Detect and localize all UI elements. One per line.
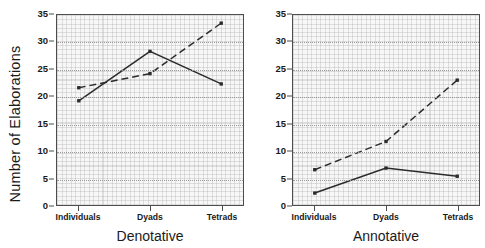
y-tick-label: 5 (281, 174, 286, 184)
gridline-10 (57, 152, 243, 153)
x-tick-label: Individuals (292, 213, 337, 222)
gridline-10 (293, 152, 479, 153)
y-tick-label: 15 (275, 119, 286, 129)
data-point-marker (220, 82, 223, 85)
data-point-marker (384, 166, 387, 169)
plot-area-denotative (56, 14, 244, 206)
y-axis-ticks-denotative: 05101520253035 (8, 14, 54, 206)
chart-panel-annotative (292, 14, 480, 206)
plot-lines-denotative (57, 15, 243, 205)
x-axis-title-annotative: Annotative (292, 228, 480, 244)
y-tick-label: 25 (37, 64, 48, 74)
data-point-marker (313, 168, 316, 171)
series-line-dashed (79, 23, 221, 88)
x-tick-mark (222, 206, 223, 211)
data-point-marker (148, 50, 151, 53)
y-tick-label: 30 (37, 37, 48, 47)
series-line-solid (79, 51, 221, 100)
figure-canvas: Number of Elaborations 05101520253035 De… (0, 0, 485, 248)
y-tick-label: 15 (37, 119, 48, 129)
gridline-30 (293, 42, 479, 43)
data-point-marker (456, 78, 459, 81)
y-tick-mark (49, 41, 54, 42)
y-tick-label: 30 (275, 37, 286, 47)
y-tick-label: 35 (37, 9, 48, 19)
gridline-15 (57, 125, 243, 126)
x-tick-label: Individuals (56, 213, 101, 222)
y-tick-mark (49, 123, 54, 124)
y-tick-mark (49, 14, 54, 15)
y-tick-mark (49, 68, 54, 69)
x-axis-title-denotative: Denotative (56, 228, 244, 244)
y-tick-label: 0 (43, 201, 48, 211)
x-axis-annotative: Annotative IndividualsDyadsTetrads (292, 206, 480, 246)
y-tick-mark (49, 206, 54, 207)
gridline-15 (293, 125, 479, 126)
x-tick-mark (314, 206, 315, 211)
gridline-30 (57, 42, 243, 43)
x-axis-denotative: Denotative IndividualsDyadsTetrads (56, 206, 244, 246)
x-tick-label: Dyads (137, 213, 163, 222)
y-tick-label: 10 (37, 146, 48, 156)
x-tick-mark (386, 206, 387, 211)
gridline-5 (293, 180, 479, 181)
y-tick-label: 5 (43, 174, 48, 184)
y-axis-ticks-annotative: 05101520253035 (246, 14, 292, 206)
y-tick-label: 20 (275, 92, 286, 102)
x-tick-mark (78, 206, 79, 211)
data-point-marker (77, 99, 80, 102)
data-point-marker (313, 191, 316, 194)
gridline-25 (293, 70, 479, 71)
plot-lines-annotative (293, 15, 479, 205)
y-tick-label: 20 (37, 92, 48, 102)
x-tick-label: Tetrads (207, 213, 237, 222)
plot-area-annotative (292, 14, 480, 206)
data-point-marker (77, 86, 80, 89)
x-tick-mark (458, 206, 459, 211)
gridline-20 (57, 97, 243, 98)
data-point-marker (148, 72, 151, 75)
y-tick-mark (49, 151, 54, 152)
x-tick-mark (150, 206, 151, 211)
x-tick-label: Tetrads (443, 213, 473, 222)
y-tick-label: 25 (275, 64, 286, 74)
y-tick-mark (49, 178, 54, 179)
y-tick-label: 35 (275, 9, 286, 19)
data-point-marker (220, 21, 223, 24)
y-tick-label: 0 (281, 201, 286, 211)
data-point-marker (456, 175, 459, 178)
gridline-5 (57, 180, 243, 181)
gridline-25 (57, 70, 243, 71)
gridline-20 (293, 97, 479, 98)
chart-panel-denotative (56, 14, 244, 206)
y-tick-mark (49, 96, 54, 97)
y-tick-label: 10 (275, 146, 286, 156)
data-point-marker (384, 140, 387, 143)
series-line-solid (315, 168, 457, 193)
x-tick-label: Dyads (373, 213, 399, 222)
